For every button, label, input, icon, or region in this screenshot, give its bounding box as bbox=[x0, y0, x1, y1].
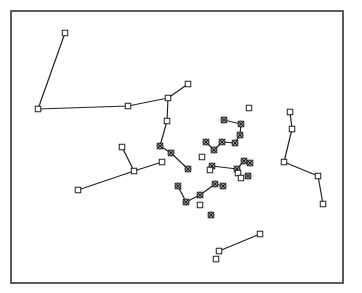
edge-line bbox=[167, 98, 168, 121]
asterisk-box-marker bbox=[220, 183, 227, 190]
edge-line bbox=[219, 234, 260, 251]
edge-line bbox=[38, 106, 128, 109]
asterisk-box-marker bbox=[197, 192, 204, 199]
edge-line bbox=[38, 33, 65, 109]
asterisk-box-marker bbox=[219, 139, 226, 146]
asterisk-box-marker bbox=[241, 158, 248, 165]
asterisk-box-marker bbox=[185, 166, 192, 173]
open-square-marker bbox=[281, 159, 287, 165]
edge-line bbox=[318, 176, 323, 204]
asterisk-box-marker bbox=[238, 121, 245, 128]
open-square-marker bbox=[165, 95, 171, 101]
open-square-marker bbox=[125, 103, 131, 109]
open-square-marker bbox=[207, 167, 213, 173]
open-square-marker bbox=[320, 201, 326, 207]
asterisk-box-marker bbox=[183, 199, 190, 206]
node-layer bbox=[35, 30, 326, 262]
open-square-marker bbox=[213, 256, 219, 262]
asterisk-box-marker bbox=[211, 147, 218, 154]
open-square-marker bbox=[257, 231, 263, 237]
open-square-marker bbox=[238, 175, 244, 181]
diagram-canvas bbox=[0, 0, 362, 293]
open-square-marker bbox=[119, 144, 125, 150]
asterisk-box-marker bbox=[221, 117, 228, 124]
open-square-marker bbox=[199, 154, 205, 160]
open-square-marker bbox=[131, 168, 137, 174]
asterisk-box-marker bbox=[157, 143, 164, 150]
asterisk-box-marker bbox=[168, 150, 175, 157]
edge-line bbox=[284, 129, 292, 162]
plot-frame bbox=[11, 11, 343, 283]
asterisk-box-marker bbox=[245, 173, 252, 180]
asterisk-box-marker bbox=[212, 181, 219, 188]
open-square-marker bbox=[197, 202, 203, 208]
asterisk-box-marker bbox=[237, 132, 244, 139]
open-square-marker bbox=[216, 248, 222, 254]
open-square-marker bbox=[164, 118, 170, 124]
network-plot bbox=[0, 0, 362, 293]
open-square-marker bbox=[289, 126, 295, 132]
edge-line bbox=[212, 166, 237, 169]
edge-line bbox=[128, 98, 168, 106]
open-square-marker bbox=[315, 173, 321, 179]
open-square-marker bbox=[62, 30, 68, 36]
asterisk-box-marker bbox=[203, 139, 210, 146]
open-square-marker bbox=[287, 109, 293, 115]
open-square-marker bbox=[159, 159, 165, 165]
open-square-marker bbox=[35, 106, 41, 112]
edge-line bbox=[284, 162, 318, 176]
edge-line bbox=[134, 162, 162, 171]
asterisk-box-marker bbox=[208, 212, 215, 219]
edge-line bbox=[160, 121, 167, 146]
edge-layer bbox=[38, 33, 323, 251]
edge-line bbox=[122, 147, 134, 171]
asterisk-box-marker bbox=[175, 183, 182, 190]
open-square-marker bbox=[246, 105, 252, 111]
open-square-marker bbox=[75, 187, 81, 193]
asterisk-box-marker bbox=[232, 140, 239, 147]
asterisk-box-marker bbox=[247, 160, 254, 167]
edge-line bbox=[78, 171, 134, 190]
open-square-marker bbox=[185, 81, 191, 87]
